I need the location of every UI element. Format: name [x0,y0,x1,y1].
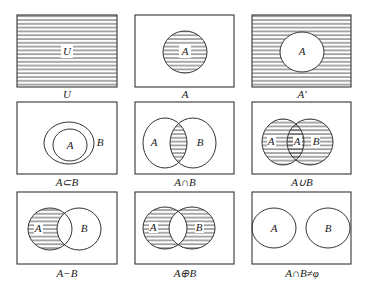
panel-subset: A B A⊂B [17,102,117,188]
caption-symmetric-difference: A⊕B [173,267,197,279]
label-a: A [181,45,189,57]
label-b: B [313,135,320,147]
label-a: A [66,139,74,151]
panel-union: A A B A∪B [252,102,351,188]
panel-difference: A B A−B [17,192,117,279]
panel-disjoint: A B A∩B≠φ [252,192,351,279]
label-a: A [34,222,42,234]
label-u: U [63,45,72,57]
label-a-overlap: A [293,135,301,147]
label-a: A [150,136,158,148]
caption-disjoint: A∩B≠φ [284,267,319,279]
panel-intersection: A B A∩B [135,102,234,188]
caption-a: A [181,88,189,100]
caption-union: A∪B [290,176,313,188]
label-a: A [149,221,157,233]
label-b: B [97,136,104,148]
universal-box [252,192,351,264]
label-a: A [270,222,278,234]
panel-set-a: A A [135,15,234,100]
venn-diagram-grid: U U A A A A′ A B A⊂B A B A∩B [0,0,367,293]
label-b: B [325,222,332,234]
caption-intersection: A∩B [173,176,196,188]
panel-complement: A A′ [252,15,351,100]
label-b: B [197,136,204,148]
label-a: A [267,135,275,147]
caption-difference: A−B [56,267,78,279]
caption-complement: A′ [296,88,307,100]
label-b: B [81,222,88,234]
label-b: B [196,221,203,233]
caption-u: U [63,88,72,100]
label-a: A [298,45,306,57]
caption-subset: A⊂B [55,176,79,188]
panel-symmetric-difference: A B A⊕B [135,192,234,279]
panel-universal: U U [17,15,117,100]
